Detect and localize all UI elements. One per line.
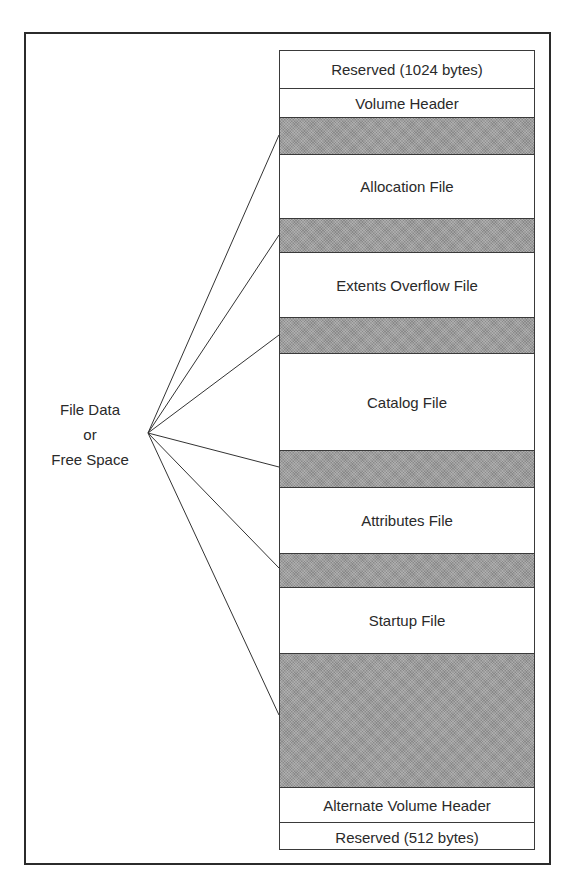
segment-volume-header: Volume Header (280, 89, 534, 118)
segment-extents-overflow-file: Extents Overflow File (280, 253, 534, 318)
segment-allocation-file: Allocation File (280, 155, 534, 219)
segment-startup-file: Startup File (280, 588, 534, 654)
segment-free-space-1 (280, 118, 534, 155)
segment-alternate-volume-header: Alternate Volume Header (280, 788, 534, 823)
label-line-2: or (40, 422, 140, 447)
segment-free-space-4 (280, 451, 534, 488)
segment-free-space-5 (280, 554, 534, 588)
segment-free-space-6 (280, 654, 534, 788)
segment-reserved-512: Reserved (512 bytes) (280, 823, 534, 851)
segment-catalog-file: Catalog File (280, 354, 534, 451)
volume-layout-column: Reserved (1024 bytes) Volume Header Allo… (279, 50, 535, 850)
segment-free-space-3 (280, 318, 534, 354)
label-line-3: Free Space (40, 447, 140, 472)
segment-free-space-2 (280, 219, 534, 253)
label-line-1: File Data (40, 397, 140, 422)
file-data-or-free-space-label: File Data or Free Space (40, 397, 140, 472)
segment-reserved-1024: Reserved (1024 bytes) (280, 51, 534, 89)
segment-attributes-file: Attributes File (280, 488, 534, 554)
